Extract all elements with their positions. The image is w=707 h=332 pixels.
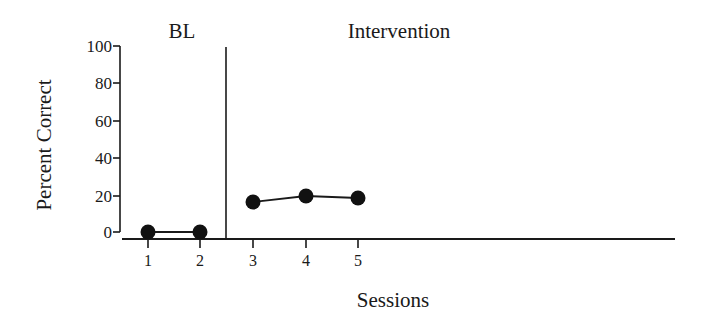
ytick-label-60: 60 xyxy=(95,112,112,131)
xtick-label-4: 4 xyxy=(302,252,310,269)
xtick-label-2: 2 xyxy=(196,252,204,269)
series-baseline xyxy=(141,225,208,240)
y-axis-label: Percent Correct xyxy=(32,79,56,210)
xtick-label-5: 5 xyxy=(354,252,362,269)
ytick-label-0: 0 xyxy=(104,223,113,242)
data-point-session-1 xyxy=(141,225,156,240)
y-ticks xyxy=(113,46,120,232)
data-point-session-3 xyxy=(246,195,261,210)
data-point-session-4 xyxy=(299,189,314,204)
phase-label-bl: BL xyxy=(169,19,196,43)
data-point-session-2 xyxy=(193,225,208,240)
x-ticks xyxy=(148,239,358,248)
x-tick-labels: 1 2 3 4 5 xyxy=(144,252,362,269)
ytick-label-100: 100 xyxy=(87,37,113,56)
x-axis-label: Sessions xyxy=(357,288,429,312)
phase-label-intervention: Intervention xyxy=(348,19,451,43)
xtick-label-1: 1 xyxy=(144,252,152,269)
single-case-chart: 100 80 60 40 20 0 Percent Correct 1 2 3 … xyxy=(0,0,707,332)
ytick-label-80: 80 xyxy=(95,74,112,93)
ytick-label-40: 40 xyxy=(95,149,112,168)
ytick-label-20: 20 xyxy=(95,187,112,206)
series-intervention xyxy=(246,189,366,210)
y-tick-labels: 100 80 60 40 20 0 xyxy=(87,37,113,242)
xtick-label-3: 3 xyxy=(249,252,257,269)
data-point-session-5 xyxy=(351,191,366,206)
